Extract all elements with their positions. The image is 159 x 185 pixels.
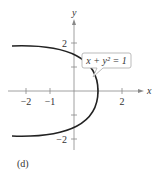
figure-caption: (d)	[17, 158, 29, 169]
x-tick-label: −1	[45, 96, 56, 107]
x-axis-label: x	[146, 85, 152, 96]
y-axis-label: y	[71, 7, 77, 18]
x-axis-arrow-icon	[138, 89, 144, 93]
x-tick-label: 2	[120, 96, 125, 107]
equation-callout: x + y² = 1	[82, 53, 131, 77]
y-axis-arrow-icon	[72, 19, 76, 25]
y-tick-label: 2	[62, 38, 67, 49]
equation-label: x + y² = 1	[85, 55, 126, 66]
x-tick-label: −2	[21, 96, 32, 107]
y-tick-label: −2	[56, 134, 67, 145]
